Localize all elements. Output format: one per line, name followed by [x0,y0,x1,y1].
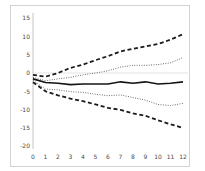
y-tick-label: 0 [26,69,30,76]
x-tick-label: 9 [144,153,148,160]
y-tick-label: -20 [20,142,30,149]
x-tick-label: 12 [179,153,187,160]
y-tick-label: -5 [24,88,30,95]
x-tick-label: 0 [31,153,35,160]
x-tick-label: 5 [94,153,98,160]
x-tick-label: 8 [131,153,135,160]
x-tick-label: 1 [44,153,48,160]
y-tick-label: 15 [22,14,30,21]
line-chart-panel: 151050-5-10-15-200123456789101112 [0,0,205,171]
y-tick-label: -15 [20,124,30,131]
x-tick-label: 7 [119,153,123,160]
x-tick-label: 10 [154,153,162,160]
plot-frame [11,6,190,167]
y-tick-label: 5 [26,51,30,58]
x-tick-label: 2 [56,153,60,160]
confidence-band-line-chart: 151050-5-10-15-200123456789101112 [0,0,205,171]
y-tick-label: 10 [22,33,30,40]
x-tick-label: 11 [167,153,175,160]
x-tick-label: 6 [106,153,110,160]
y-tick-label: -10 [20,106,30,113]
x-tick-label: 3 [69,153,73,160]
x-tick-label: 4 [81,153,85,160]
